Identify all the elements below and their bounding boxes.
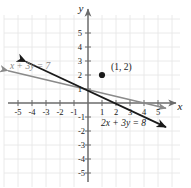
x-tick-label--4: -4 — [28, 107, 36, 117]
grid-lines — [4, 15, 180, 187]
y-tick-label-5: 5 — [78, 28, 82, 38]
x-tick-label--3: -3 — [42, 107, 49, 117]
y-tick-label--4: -4 — [78, 154, 86, 164]
x-tick-label-4: 4 — [142, 107, 147, 117]
y-axis-label: y — [78, 2, 84, 14]
y-tick-label-1: 1 — [78, 84, 82, 94]
x-tick-label--5: -5 — [14, 107, 21, 117]
y-tick-label-3: 3 — [78, 56, 82, 66]
intersection-point-dot — [99, 72, 105, 78]
y-tick-label-2: 2 — [78, 70, 82, 80]
linear-system-graph-figure: -5 -4 -3 -2 -1 1 2 3 4 5 5 4 3 2 1 -1 -2… — [0, 0, 191, 188]
equation-label-line-2: 2x + 3y = 8 — [101, 118, 146, 128]
x-tick-label-5: 5 — [156, 107, 160, 117]
y-tick-label--2: -2 — [78, 126, 85, 136]
y-tick-label--1: -1 — [78, 112, 85, 122]
axes — [8, 9, 176, 182]
x-tick-label--2: -2 — [56, 107, 63, 117]
y-tick-label--3: -3 — [78, 140, 85, 150]
x-tick-label-1: 1 — [100, 107, 104, 117]
x-tick-label--1: -1 — [70, 107, 77, 117]
equation-label-line-1: x + 3y = 7 — [9, 61, 52, 71]
x-axis-label: x — [177, 100, 183, 112]
y-tick-label--5: -5 — [78, 168, 85, 178]
x-tick-label-2: 2 — [114, 107, 118, 117]
x-tick-label-3: 3 — [128, 107, 132, 117]
intersection-point-label: (1, 2) — [111, 62, 132, 73]
